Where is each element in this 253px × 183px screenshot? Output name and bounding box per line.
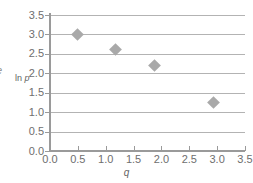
data-point-marker [71, 28, 84, 41]
y-axis-tick-mark [45, 132, 50, 133]
y-axis-title: ln p [15, 73, 30, 83]
y-axis-tick-label: 0.5 [18, 126, 44, 137]
y-axis-tick-mark [45, 151, 50, 152]
y-axis-tick-label: 3.5 [18, 10, 44, 21]
x-axis-tick-mark [134, 146, 135, 151]
y-axis-tick-mark [45, 54, 50, 55]
x-axis-tick-mark [161, 146, 162, 151]
gridline [50, 132, 245, 133]
y-axis-tick-label: 1.5 [18, 87, 44, 98]
y-axis-tick-label-wrap: 0.5 [14, 126, 44, 137]
gridline [50, 73, 245, 74]
y-axis-tick-label-wrap: 1.5 [14, 87, 44, 98]
y-axis-tick-mark [45, 15, 50, 16]
y-axis-tick-mark [45, 73, 50, 74]
y-axis-tick-mark [45, 112, 50, 113]
scatter-chart-figure: e 0.00.51.01.52.02.53.03.5 0.00.51.01.52… [0, 0, 253, 183]
cropped-edge-glyph: e [0, 64, 6, 76]
x-axis-tick-mark [50, 146, 51, 151]
y-axis-title-text: ln p [15, 73, 30, 83]
data-point-marker [207, 96, 220, 109]
x-axis-tick-mark [106, 146, 107, 151]
y-axis-tick-label: 1.0 [18, 107, 44, 118]
y-axis-tick-label-wrap: 2.5 [14, 48, 44, 59]
x-axis-tick-mark [78, 146, 79, 151]
y-axis-tick-label: 2.5 [18, 48, 44, 59]
y-axis-tick-label-wrap: 3.0 [14, 29, 44, 40]
gridline [50, 112, 245, 113]
x-axis-tick-mark [189, 146, 190, 151]
y-axis-tick-label: 3.0 [18, 29, 44, 40]
x-axis-tick-mark [245, 146, 246, 151]
gridline [50, 54, 245, 55]
x-axis-tick-mark [217, 146, 218, 151]
y-axis-tick-label-wrap: 1.0 [14, 107, 44, 118]
gridline [50, 93, 245, 94]
y-axis-tick-mark [45, 93, 50, 94]
gridline [50, 15, 245, 16]
x-axis-title: q [0, 167, 253, 178]
y-axis-tick-mark [45, 34, 50, 35]
y-axis-tick-label-wrap: 3.5 [14, 10, 44, 21]
y-axis-title-variable: p [25, 73, 30, 83]
x-axis-tick-label: 3.5 [228, 154, 253, 165]
data-point-marker [148, 59, 161, 72]
